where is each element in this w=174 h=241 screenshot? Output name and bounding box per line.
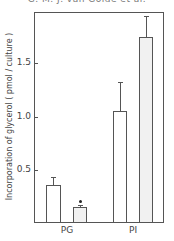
- error-bar: [146, 16, 147, 37]
- error-cap: [118, 82, 123, 83]
- error-bar: [120, 82, 121, 111]
- bar-pi-open: [113, 111, 127, 223]
- error-bar: [53, 177, 54, 185]
- error-cap: [144, 16, 149, 17]
- y-tick-label: 0.5: [9, 164, 31, 174]
- y-tick-label: 1.5: [9, 57, 31, 67]
- y-tick-0-5: [34, 170, 38, 171]
- x-label-pg: PG: [52, 225, 82, 235]
- y-tick-1-5: [34, 63, 38, 64]
- error-cap: [51, 177, 56, 178]
- y-tick-1-0: [34, 117, 38, 118]
- bar-pi-shaded: [139, 37, 153, 223]
- bar-pg-open: [46, 185, 61, 223]
- y-tick-label: 1.0: [9, 111, 31, 121]
- bar-pg-shaded: [73, 207, 87, 223]
- page-header-fragment: G. M. J. van Golde et al.: [0, 0, 174, 4]
- error-cap: [78, 205, 83, 206]
- x-label-pi: PI: [118, 225, 148, 235]
- significance-marker: [79, 200, 82, 203]
